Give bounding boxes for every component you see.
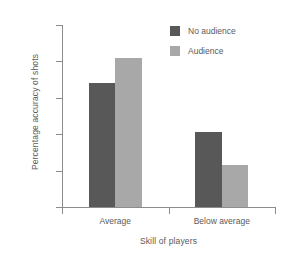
x-axis-title: Skill of players [62, 236, 275, 246]
legend-item: No audience [170, 21, 236, 41]
y-axis-tick-mark [56, 134, 63, 135]
bar [222, 165, 249, 207]
bar [115, 58, 142, 207]
x-axis-category-label: Average [55, 216, 175, 226]
x-axis-separator-tick [275, 207, 276, 214]
bar [195, 132, 222, 207]
legend-swatch-icon [170, 46, 180, 56]
bar-chart: Percentage accuracy of shots 02040608010… [0, 0, 294, 262]
y-axis-tick-mark [56, 25, 63, 26]
x-axis-category-label: Below average [162, 216, 282, 226]
y-axis-tick-mark [56, 171, 63, 172]
y-axis-line [62, 25, 63, 208]
y-axis-tick-mark [56, 61, 63, 62]
bar [89, 83, 116, 207]
x-axis-separator-tick [62, 207, 63, 214]
chart-legend: No audienceAudience [170, 21, 236, 61]
legend-label: Audience [188, 46, 223, 56]
legend-item: Audience [170, 41, 236, 61]
x-axis-separator-tick [169, 207, 170, 214]
y-axis-title: Percentage accuracy of shots [30, 17, 40, 207]
y-axis-tick-mark [56, 98, 63, 99]
legend-label: No audience [188, 26, 236, 36]
legend-swatch-icon [170, 26, 180, 36]
